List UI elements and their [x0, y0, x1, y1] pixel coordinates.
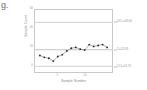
lcl-annotation-label: LCL=11.70: [117, 65, 131, 68]
data-point: [39, 55, 41, 57]
y-axis-tick-labels: 60 40 20 0: [18, 9, 33, 73]
center-annotation-label: C=24.38: [117, 48, 128, 51]
y-tick-label: 40: [21, 26, 33, 29]
data-point: [66, 50, 68, 52]
y-tick-label: 20: [21, 45, 33, 48]
page-text-fragment: g.: [1, 0, 8, 11]
ucl-annotation-label: UCL=48.06: [117, 20, 132, 23]
data-point: [88, 44, 90, 46]
y-tick-label: 0: [21, 64, 33, 67]
data-point: [79, 48, 81, 50]
data-point: [57, 56, 59, 58]
data-point: [84, 49, 86, 51]
control-chart-figure: Sample Count 60 40 20 0: [10, 6, 147, 90]
data-point: [70, 47, 72, 49]
data-point: [43, 56, 45, 58]
data-point: [75, 46, 77, 48]
data-point: [48, 57, 50, 59]
x-tick-label: 10: [83, 74, 86, 77]
document-page: g. Sample Count 60 40 20 0: [0, 0, 147, 90]
data-point: [93, 46, 95, 48]
y-tick-label: 60: [21, 7, 33, 10]
data-point: [102, 44, 104, 46]
plot-area: [34, 9, 113, 73]
x-tick-label: 5: [57, 74, 59, 77]
x-axis-title: Sample Number: [34, 79, 113, 83]
data-point: [97, 45, 99, 47]
control-limit-annotations: UCL=48.06 C=24.38 LCL=11.70: [114, 9, 147, 73]
plot-svg: [35, 10, 112, 72]
series-line: [40, 45, 107, 61]
data-point: [106, 46, 108, 48]
data-point: [61, 54, 63, 56]
data-point: [52, 60, 54, 62]
